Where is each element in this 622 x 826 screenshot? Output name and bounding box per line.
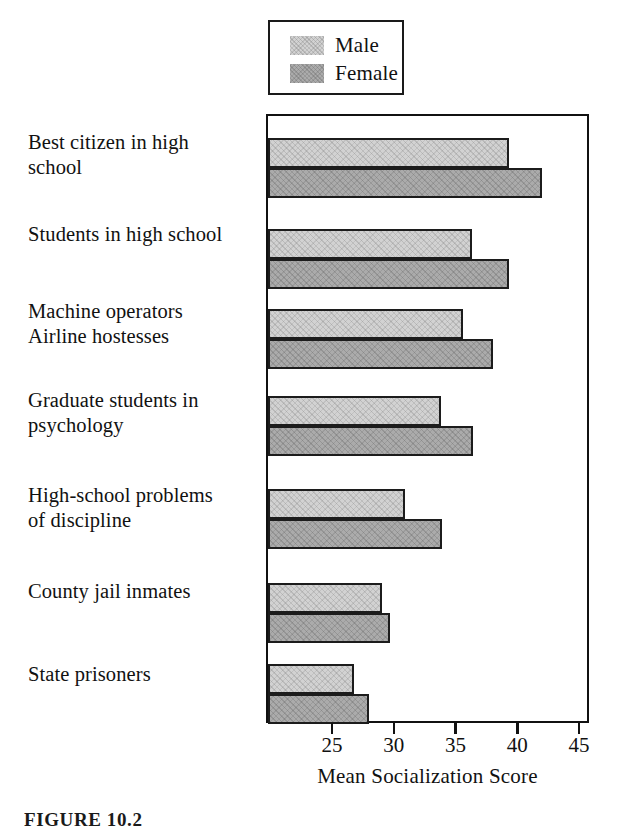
bar-male-1 <box>268 229 472 259</box>
x-tick-mark-45 <box>578 723 581 734</box>
legend-label-female: Female <box>335 63 398 84</box>
bar-male-3 <box>268 396 441 426</box>
x-tick-mark-35 <box>454 723 457 734</box>
category-label-state-prisoners: State prisoners <box>28 662 262 687</box>
x-tick-mark-25 <box>331 723 334 734</box>
bar-female-4 <box>268 519 442 549</box>
category-label-county-jail: County jail inmates <box>28 579 262 604</box>
bar-female-5 <box>268 613 390 643</box>
x-tick-mark-40 <box>516 723 519 734</box>
x-tick-mark-30 <box>393 723 396 734</box>
category-label-machine-airline: Machine operatorsAirline hostesses <box>28 299 262 349</box>
bar-male-4 <box>268 489 405 519</box>
figure-caption: FIGURE 10.2 <box>24 810 143 826</box>
x-tick-label-30: 30 <box>374 735 414 756</box>
x-tick-label-45: 45 <box>559 735 599 756</box>
x-axis-title: Mean Socialization Score <box>266 765 589 787</box>
figure-container: Male Female Best citizen in highschool S… <box>0 0 622 826</box>
legend-entry-female: Female <box>290 60 398 86</box>
bar-male-5 <box>268 583 382 613</box>
bar-female-2 <box>268 339 493 369</box>
category-label-best-citizen: Best citizen in highschool <box>28 130 262 180</box>
bar-male-0 <box>268 138 509 168</box>
legend-swatch-male-icon <box>290 36 324 55</box>
category-label-hs-problems: High-school problemsof discipline <box>28 483 262 533</box>
bars-layer <box>268 116 589 721</box>
legend-label-male: Male <box>335 35 379 56</box>
x-tick-label-35: 35 <box>435 735 475 756</box>
legend-swatch-female-icon <box>290 64 324 83</box>
x-tick-label-40: 40 <box>497 735 537 756</box>
bar-male-6 <box>268 664 354 694</box>
category-axis-labels: Best citizen in highschool Students in h… <box>0 116 262 721</box>
bar-female-6 <box>268 694 369 724</box>
bar-female-1 <box>268 259 509 289</box>
category-label-graduate-students: Graduate students inpsychology <box>28 388 262 438</box>
legend-entry-male: Male <box>290 32 379 58</box>
bar-male-2 <box>268 309 463 339</box>
chart-legend: Male Female <box>268 20 404 95</box>
category-label-students-high-school: Students in high school <box>28 222 262 247</box>
x-tick-label-25: 25 <box>312 735 352 756</box>
bar-female-3 <box>268 426 473 456</box>
bar-female-0 <box>268 168 542 198</box>
